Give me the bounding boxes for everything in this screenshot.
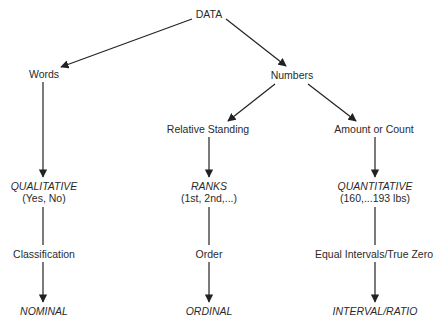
type-example: (1st, 2nd,...)	[181, 192, 237, 204]
node-ordinal: ORDINAL	[186, 305, 233, 317]
node-classification: Classification	[13, 248, 75, 260]
arrow-data-to-words	[61, 19, 192, 67]
measurement-scales-diagram: DATA Words Numbers Relative Standing Amo…	[0, 0, 443, 327]
connector-arrows	[0, 0, 443, 327]
arrow-numbers-to-relative	[228, 84, 275, 121]
node-relative-standing: Relative Standing	[167, 123, 249, 135]
type-label: QUALITATIVE	[11, 180, 78, 192]
node-qualitative: QUALITATIVE (Yes, No)	[11, 180, 78, 204]
node-ranks: RANKS (1st, 2nd,...)	[181, 180, 237, 204]
node-numbers: Numbers	[271, 69, 314, 81]
node-equal-intervals: Equal Intervals/True Zero	[315, 248, 433, 260]
node-words: Words	[29, 68, 59, 80]
arrow-data-to-numbers	[226, 19, 286, 66]
type-example: (Yes, No)	[11, 192, 78, 204]
node-interval-ratio: INTERVAL/RATIO	[333, 305, 418, 317]
node-data: DATA	[196, 8, 222, 20]
node-amount-or-count: Amount or Count	[334, 123, 413, 135]
node-nominal: NOMINAL	[20, 305, 68, 317]
node-order: Order	[196, 248, 223, 260]
node-quantitative: QUANTITATIVE (160,...193 lbs)	[338, 180, 413, 204]
type-label: QUANTITATIVE	[338, 180, 413, 192]
arrow-numbers-to-amount	[308, 84, 356, 121]
type-example: (160,...193 lbs)	[338, 192, 413, 204]
type-label: RANKS	[191, 180, 227, 192]
